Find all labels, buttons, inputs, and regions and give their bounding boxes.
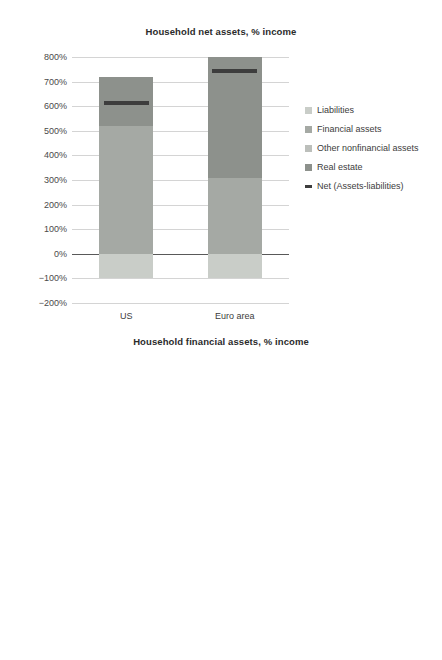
legend-item[interactable]: Financial assets xyxy=(305,124,442,135)
legend-label: Other nonfinancial assets xyxy=(317,143,419,154)
legend-item[interactable]: Net (Assets-liabilities) xyxy=(305,181,442,192)
legend-swatch-icon xyxy=(305,126,312,133)
y-axis-tick-label: 800% xyxy=(44,52,67,62)
y-axis-tick-label: 0% xyxy=(54,249,67,259)
legend-label: Financial assets xyxy=(317,124,382,135)
legend-net-assets: LiabilitiesFinancial assetsOther nonfina… xyxy=(305,105,442,192)
legend-label: Real estate xyxy=(317,162,363,173)
legend-label: Net (Assets-liabilities) xyxy=(317,181,404,192)
bar-us xyxy=(99,57,153,303)
bar-segment-financial-assets xyxy=(99,126,153,254)
y-axis-tick-label: −100% xyxy=(39,273,67,283)
y-axis-tick-label: −200% xyxy=(39,298,67,308)
bar-segment-liabilities xyxy=(208,254,262,279)
y-axis-tick-label: 100% xyxy=(44,224,67,234)
legend-line-icon xyxy=(305,185,312,188)
legend-item[interactable]: Liabilities xyxy=(305,105,442,116)
bar-segment-real-estate xyxy=(208,57,262,178)
y-axis-tick-label: 300% xyxy=(44,175,67,185)
y-axis-tick-label: 700% xyxy=(44,77,67,87)
plot-area-net-assets: 800%700%600%500%400%300%200%100%0%−100%−… xyxy=(72,57,289,303)
chart-title-financial-assets: Household financial assets, % income xyxy=(0,336,442,347)
legend-item[interactable]: Real estate xyxy=(305,162,442,173)
bar-euro-area xyxy=(208,57,262,303)
gridline xyxy=(72,303,289,304)
y-axis-tick-label: 600% xyxy=(44,101,67,111)
legend-swatch-icon xyxy=(305,145,312,152)
net-assets-marker xyxy=(212,69,257,73)
chart-title-net-assets: Household net assets, % income xyxy=(0,26,442,37)
x-axis-label-us: US xyxy=(120,311,133,321)
net-assets-marker xyxy=(104,101,149,105)
legend-swatch-icon xyxy=(305,107,312,114)
chart-household-financial-assets: Household financial assets, % income 800… xyxy=(0,330,442,660)
y-axis-tick-label: 400% xyxy=(44,150,67,160)
y-axis-tick-label: 200% xyxy=(44,200,67,210)
bar-segment-financial-assets xyxy=(208,178,262,254)
chart-household-net-assets: Household net assets, % income 800%700%6… xyxy=(0,0,442,330)
legend-item[interactable]: Other nonfinancial assets xyxy=(305,143,442,154)
y-axis-tick-label: 500% xyxy=(44,126,67,136)
legend-swatch-icon xyxy=(305,164,312,171)
x-axis-label-euro-area: Euro area xyxy=(215,311,255,321)
legend-label: Liabilities xyxy=(317,105,354,116)
bar-segment-liabilities xyxy=(99,254,153,279)
